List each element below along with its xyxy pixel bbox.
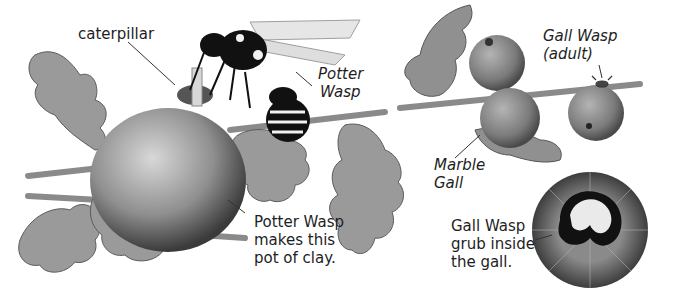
label-caterpillar: caterpillar	[78, 26, 154, 43]
label-pot-caption-line1: Potter Wasp	[254, 214, 344, 231]
label-marble-gall-line1: Marble	[434, 157, 485, 174]
gall-cross-section	[532, 172, 648, 288]
label-pot-caption-line2: makes this	[254, 232, 335, 249]
label-gall-wasp-adult-line1: Gall Wasp	[543, 28, 617, 45]
label-grub-caption-line2: grub inside	[451, 236, 535, 253]
label-marble-gall-line2: Gall	[434, 175, 463, 192]
label-pot-caption-line3: pot of clay.	[254, 250, 336, 267]
label-potter-wasp-line2: Wasp	[320, 84, 361, 101]
label-grub-caption-line3: the gall.	[451, 254, 512, 271]
label-potter-wasp-line1: Potter	[318, 66, 363, 83]
clay-pot	[90, 68, 246, 252]
label-gall-wasp-adult-line2: (adult)	[543, 46, 593, 63]
label-grub-caption-line1: Gall Wasp	[451, 218, 525, 235]
